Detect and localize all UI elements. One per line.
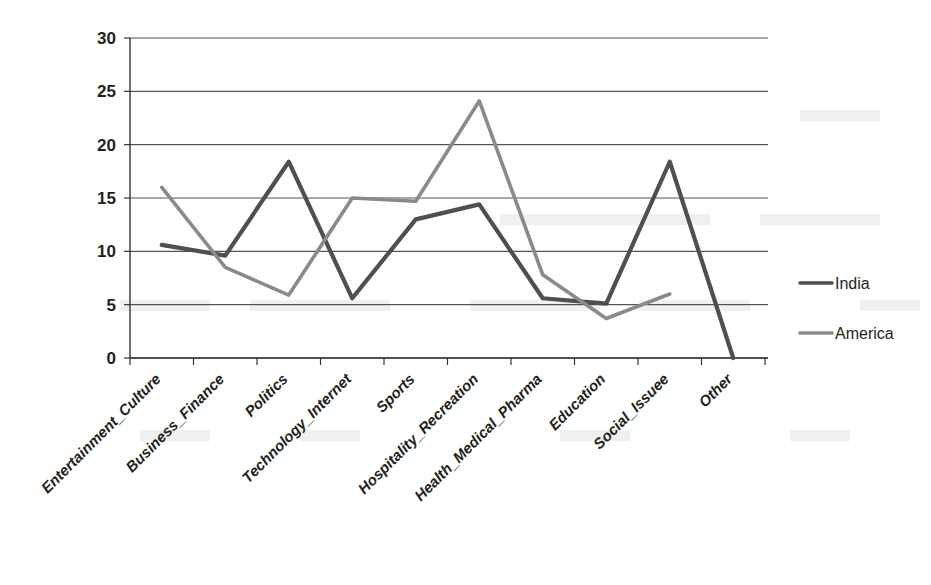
y-axis-tick-label: 0 xyxy=(107,349,116,368)
x-axis-tick-label: Education xyxy=(545,370,608,433)
data-series-layer xyxy=(162,101,734,358)
x-axis-tick-label: Health_Medical_Pharma xyxy=(411,370,545,504)
y-axis-tick-label: 30 xyxy=(97,29,116,48)
y-axis-tick-label: 20 xyxy=(97,136,116,155)
x-axis-tick-label: Politics xyxy=(241,370,291,420)
x-axis-tick-label: Technology_Internet xyxy=(238,369,355,486)
x-axis-tick-label: Other xyxy=(695,369,736,410)
y-axis-tick-label: 10 xyxy=(97,242,116,261)
y-axis-tick-labels: 302520151050 xyxy=(97,29,116,368)
x-axis-tick-label: Hospitality_Recreation xyxy=(354,370,481,497)
y-axis-tick-label: 5 xyxy=(107,296,116,315)
y-axis-tick-label: 25 xyxy=(97,82,116,101)
series-line-america xyxy=(162,101,670,319)
y-axis-tick-label: 15 xyxy=(97,189,116,208)
x-axis-tickmarks xyxy=(130,358,765,365)
series-line-india xyxy=(162,162,734,358)
x-axis-tick-label: Sports xyxy=(372,370,418,416)
legend-label-america: America xyxy=(835,325,894,342)
line-chart: 302520151050 Entertainment_CultureBusine… xyxy=(0,0,931,585)
chart-svg: 302520151050 Entertainment_CultureBusine… xyxy=(0,0,931,585)
legend-label-india: India xyxy=(835,275,870,292)
